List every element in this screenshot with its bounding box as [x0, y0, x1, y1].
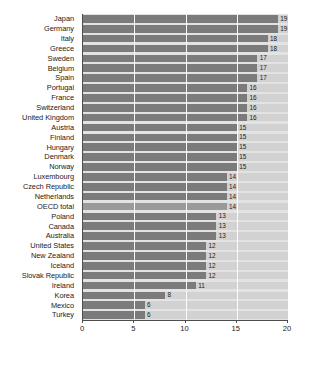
- bar-value-label: 15: [237, 144, 247, 150]
- bar: [83, 232, 216, 240]
- bar-row: 12: [83, 241, 288, 251]
- bar-value-label: 12: [206, 263, 216, 269]
- category-label: OECD total: [0, 202, 78, 212]
- bar-row: 11: [83, 281, 288, 291]
- bar-row: 17: [83, 73, 288, 83]
- category-label: Greece: [0, 44, 78, 54]
- bar-row: 16: [83, 113, 288, 123]
- bar-value-label: 14: [227, 174, 237, 180]
- bar-value-label: 12: [206, 243, 216, 249]
- bar-value-label: 12: [206, 272, 216, 278]
- bar: [83, 301, 145, 309]
- bar-value-label: 15: [237, 154, 247, 160]
- category-label: Netherlands: [0, 192, 78, 202]
- bar: [83, 84, 247, 92]
- bar: [83, 193, 227, 201]
- category-label: Mexico: [0, 300, 78, 310]
- category-label: Switzerland: [0, 103, 78, 113]
- bar: [83, 203, 227, 211]
- category-label: Germany: [0, 24, 78, 34]
- bar-rows: 1919181817171716161616151515151514141414…: [83, 14, 288, 320]
- bar-row: 13: [83, 221, 288, 231]
- bar-row: 13: [83, 212, 288, 222]
- x-tick: [82, 320, 83, 323]
- bar-value-label: 13: [216, 233, 226, 239]
- bar-row: 14: [83, 172, 288, 182]
- bar-row: 18: [83, 34, 288, 44]
- category-label: Czech Republic: [0, 182, 78, 192]
- category-label: Iceland: [0, 261, 78, 271]
- bar-value-label: 19: [278, 16, 288, 22]
- bar-row: 6: [83, 300, 288, 310]
- x-axis: 05101520: [82, 320, 287, 340]
- bar-row: 15: [83, 142, 288, 152]
- bar: [83, 104, 247, 112]
- category-label: Spain: [0, 73, 78, 83]
- bar-value-label: 8: [165, 292, 171, 298]
- bar-row: 16: [83, 103, 288, 113]
- bar: [83, 252, 206, 260]
- bar-row: 6: [83, 310, 288, 320]
- bar: [83, 45, 268, 53]
- x-tick-label: 15: [232, 325, 240, 333]
- x-tick: [133, 320, 134, 323]
- category-label: Norway: [0, 162, 78, 172]
- bar-value-label: 16: [247, 85, 257, 91]
- category-label: New Zealand: [0, 251, 78, 261]
- bar-value-label: 18: [268, 45, 278, 51]
- bar: [83, 272, 206, 280]
- bar: [83, 134, 237, 142]
- x-tick-label: 5: [131, 325, 135, 333]
- bar: [83, 74, 257, 82]
- category-label: Japan: [0, 14, 78, 24]
- bar-value-label: 17: [257, 55, 267, 61]
- bar-row: 12: [83, 271, 288, 281]
- bar: [83, 292, 165, 300]
- category-label: United States: [0, 241, 78, 251]
- bar-row: 12: [83, 251, 288, 261]
- bar: [83, 94, 247, 102]
- bar-value-label: 6: [145, 312, 151, 318]
- bar: [83, 163, 237, 171]
- bar-value-label: 14: [227, 193, 237, 199]
- bar-row: 15: [83, 123, 288, 133]
- bar: [83, 64, 257, 72]
- bar: [83, 282, 196, 290]
- category-label: United Kingdom: [0, 113, 78, 123]
- bar: [83, 55, 257, 63]
- bar-value-label: 15: [237, 164, 247, 170]
- category-label: Sweden: [0, 54, 78, 64]
- bar: [83, 153, 237, 161]
- bar: [83, 262, 206, 270]
- category-label: Finland: [0, 133, 78, 143]
- plot-area: 1919181817171716161616151515151514141414…: [82, 14, 288, 320]
- bar-row: 19: [83, 14, 288, 24]
- bar-row: 13: [83, 231, 288, 241]
- bar-value-label: 16: [247, 95, 257, 101]
- category-label: Italy: [0, 34, 78, 44]
- x-tick-label: 10: [180, 325, 188, 333]
- x-tick: [287, 320, 288, 323]
- bar: [83, 213, 216, 221]
- bar: [83, 311, 145, 319]
- category-label: Turkey: [0, 310, 78, 320]
- bar-row: 15: [83, 133, 288, 143]
- bar: [83, 114, 247, 122]
- bar-value-label: 14: [227, 184, 237, 190]
- bar-row: 15: [83, 152, 288, 162]
- category-label: Austria: [0, 123, 78, 133]
- bar-row: 12: [83, 261, 288, 271]
- bar-value-label: 18: [268, 35, 278, 41]
- bar-value-label: 6: [145, 302, 151, 308]
- bar-row: 16: [83, 83, 288, 93]
- x-tick: [185, 320, 186, 323]
- category-label: Portugal: [0, 83, 78, 93]
- bar-row: 18: [83, 44, 288, 54]
- bar-row: 19: [83, 24, 288, 34]
- bar: [83, 143, 237, 151]
- bar-value-label: 19: [278, 26, 288, 32]
- bar-value-label: 12: [206, 253, 216, 259]
- bar-value-label: 14: [227, 203, 237, 209]
- bar-row: 16: [83, 93, 288, 103]
- category-label: Korea: [0, 291, 78, 301]
